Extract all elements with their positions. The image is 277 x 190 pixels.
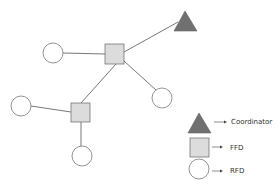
ffd-node-2: [71, 103, 90, 122]
edge-ffd1-rfd1: [63, 53, 105, 54]
arrowhead-icon: [220, 170, 223, 173]
arrowhead-icon: [224, 121, 227, 124]
rfd-node-4: [72, 146, 92, 166]
legend-rfd-icon: [189, 159, 209, 179]
edge-ffd1-ffd2: [81, 64, 116, 103]
legend-coordinator-icon: [188, 113, 211, 133]
legend-label-rfd: RFD: [230, 167, 244, 175]
rfd-node-2: [152, 88, 172, 108]
legend-label-coordinator: Coordinator: [231, 118, 272, 126]
legend-label-ffd: FFD: [230, 144, 243, 152]
arrowhead-icon: [220, 146, 223, 149]
ffd-node-1: [105, 44, 124, 64]
rfd-node-3: [11, 96, 31, 116]
legend: Coordinator FFD RFD: [188, 113, 272, 179]
edge-ffd1-coordinator: [124, 22, 178, 52]
legend-ffd-icon: [190, 138, 209, 157]
edges: [31, 22, 178, 147]
rfd-node-1: [43, 43, 63, 63]
edge-ffd1-rfd2: [124, 61, 156, 90]
network-diagram: Coordinator FFD RFD: [0, 0, 277, 190]
coordinator-node: [174, 11, 197, 31]
edge-ffd2-rfd3: [31, 106, 71, 112]
